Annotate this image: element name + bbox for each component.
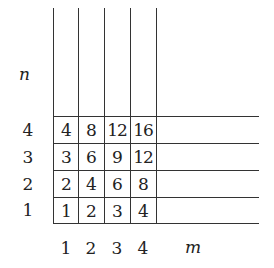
grid-cell: 8 [78,116,104,143]
grid-cell: 2 [53,170,79,197]
grid-cell: 3 [104,197,130,224]
grid-cell: 9 [104,143,130,170]
grid-cell: 3 [53,143,79,170]
grid-cell: 4 [130,197,156,224]
grid-cell: 16 [130,116,156,143]
column-label: 4 [133,238,153,258]
row-label: 2 [18,174,38,194]
row-label: 4 [18,120,38,140]
grid-cell: 2 [78,197,104,224]
y-axis-label: n [19,64,30,84]
grid-cell: 4 [53,116,79,143]
row-label: 3 [18,147,38,167]
column-label: 3 [107,238,127,258]
grid-cell: 6 [104,170,130,197]
row-label: 1 [18,200,38,220]
grid-cell: 12 [130,143,156,170]
grid-cell: 12 [104,116,130,143]
column-label: 2 [81,238,101,258]
column-label: 1 [56,238,76,258]
grid-cell: 4 [78,170,104,197]
grid-cell: 1 [53,197,79,224]
x-axis-label: m [185,237,201,257]
grid-cell: 6 [78,143,104,170]
grid-cell: 8 [130,170,156,197]
